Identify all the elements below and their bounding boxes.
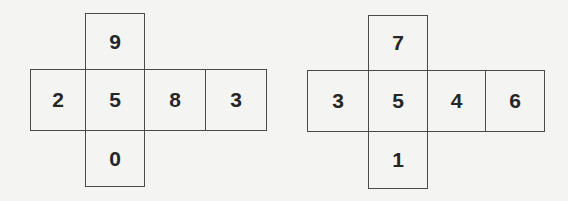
left-net-middle-face-4: 3 (205, 69, 267, 131)
left-net-middle-face-2: 5 (85, 69, 145, 131)
right-net-top-face: 7 (368, 15, 428, 71)
left-net-top-face: 9 (85, 13, 145, 70)
cube-nets-diagram: 9 2 5 8 3 0 7 3 5 4 6 1 (0, 0, 568, 201)
right-net-middle-face-3: 4 (427, 70, 486, 132)
left-net-middle-face-3: 8 (144, 69, 206, 131)
right-net-middle-face-2: 5 (368, 70, 428, 132)
right-net-bottom-face: 1 (368, 131, 428, 189)
right-net-middle-face-1: 3 (307, 70, 369, 132)
left-net-middle-face-1: 2 (30, 69, 86, 131)
right-net-middle-face-4: 6 (485, 70, 545, 132)
left-net-bottom-face: 0 (85, 130, 145, 187)
